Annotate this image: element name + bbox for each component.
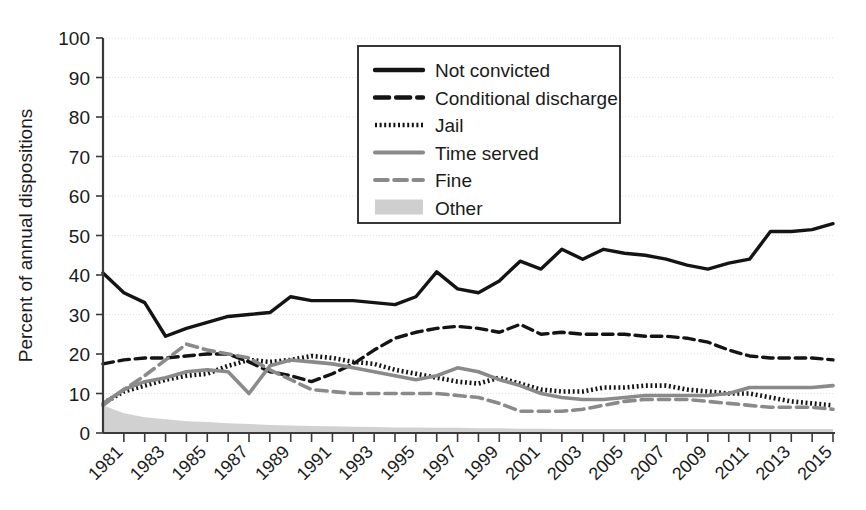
x-tick-label: 2003 — [543, 442, 585, 484]
y-tick-label: 60 — [69, 186, 90, 207]
y-axis-tick-labels: 0102030405060708090100 — [58, 28, 90, 444]
x-tick-label: 2015 — [793, 442, 835, 484]
series-area-other — [103, 405, 833, 433]
x-tick-label: 1985 — [168, 442, 210, 484]
y-tick-label: 70 — [69, 147, 90, 168]
legend-swatch-area — [375, 200, 423, 215]
x-tick-label: 1991 — [293, 442, 335, 484]
y-tick-label: 20 — [69, 344, 90, 365]
y-tick-label: 80 — [69, 107, 90, 128]
chart-legend[interactable]: Not convictedConditional dischargeJailTi… — [358, 46, 620, 223]
series-line-fine — [103, 344, 833, 411]
x-tick-label: 2011 — [711, 442, 753, 484]
y-tick-label: 0 — [79, 423, 90, 444]
series-line-conditional-discharge — [103, 324, 833, 381]
x-tick-label: 2013 — [752, 442, 794, 484]
y-tick-label: 10 — [69, 384, 90, 405]
y-tick-label: 30 — [69, 305, 90, 326]
legend-label: Other — [435, 198, 483, 219]
x-tick-label: 2009 — [668, 442, 710, 484]
legend-label: Not convicted — [435, 60, 550, 81]
y-tick-label: 40 — [69, 265, 90, 286]
series-line-not-convicted — [103, 224, 833, 337]
chart-container: 0102030405060708090100 19811983198519871… — [0, 0, 866, 510]
line-series-group — [103, 224, 833, 412]
x-tick-label: 1987 — [209, 442, 251, 484]
area-series-group — [103, 405, 833, 433]
x-tick-label: 1995 — [376, 442, 418, 484]
line-chart: 0102030405060708090100 19811983198519871… — [0, 0, 866, 510]
x-tick-label: 1989 — [251, 442, 293, 484]
x-tick-label: 2001 — [501, 442, 543, 484]
legend-label: Conditional discharge — [435, 88, 618, 109]
series-line-jail — [103, 356, 833, 405]
y-tick-label: 100 — [58, 28, 90, 49]
x-tick-label: 2005 — [585, 442, 627, 484]
y-tick-label: 90 — [69, 68, 90, 89]
legend-label: Fine — [435, 170, 472, 191]
legend-label: Time served — [435, 143, 539, 164]
x-tick-label: 1981 — [84, 442, 126, 484]
legend-label: Jail — [435, 115, 464, 136]
x-tick-label: 1999 — [460, 442, 502, 484]
x-tick-label: 1983 — [126, 442, 168, 484]
x-tick-label: 1993 — [334, 442, 376, 484]
y-axis-title: Percent of annual dispositions — [15, 109, 36, 363]
y-axis-title-text: Percent of annual dispositions — [15, 109, 36, 363]
series-line-time-served — [103, 360, 833, 403]
x-tick-label: 2007 — [626, 442, 668, 484]
x-tick-label: 1997 — [418, 442, 460, 484]
x-axis-tick-labels: 1981198319851987198919911993199519971999… — [84, 442, 836, 485]
y-tick-label: 50 — [69, 226, 90, 247]
